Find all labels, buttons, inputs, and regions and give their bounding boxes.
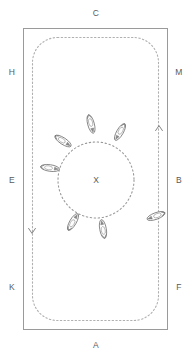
- dressage-arena-diagram: C A H E K M B F X: [0, 0, 191, 355]
- horse-circle-lower-left: [65, 212, 80, 232]
- horse-circle-upper-left: [53, 133, 73, 149]
- arena-marker-k: K: [9, 283, 15, 292]
- horse-circle-top: [85, 114, 96, 134]
- horse-circle-left: [40, 163, 60, 172]
- arena-marker-a: A: [93, 341, 99, 350]
- arena-marker-f: F: [176, 283, 182, 292]
- arena-marker-e: E: [9, 176, 15, 185]
- arena-marker-b: B: [176, 176, 182, 185]
- arena-marker-c: C: [93, 9, 99, 18]
- arena-marker-h: H: [9, 68, 15, 77]
- arena-marker-m: M: [175, 68, 182, 77]
- horse-track-right: [146, 210, 166, 223]
- horse-circle-bottom: [98, 219, 108, 239]
- horse-circle-top-right: [112, 122, 127, 142]
- arena-center-marker-x: X: [93, 176, 99, 185]
